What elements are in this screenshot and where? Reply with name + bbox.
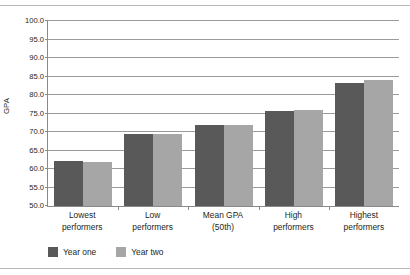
x-axis-category-label-line: Low	[117, 210, 187, 222]
chart-figure: GPA 50.055.060.065.070.075.080.085.090.0…	[0, 0, 410, 275]
x-axis-category-label-line: performers	[329, 222, 399, 234]
y-axis-tick-label: 60.0	[29, 165, 44, 173]
x-axis-category-label: Highperformers	[258, 210, 328, 233]
bar	[294, 110, 323, 206]
y-axis-tick-label: 85.0	[29, 73, 44, 81]
x-axis-category-label: Lowperformers	[117, 210, 187, 233]
legend-label: Year one	[63, 248, 96, 256]
bar-group	[329, 21, 399, 206]
legend-item[interactable]: Year one	[48, 247, 96, 257]
y-axis-tick-label: 80.0	[29, 91, 44, 99]
y-axis-title: GPA	[3, 98, 11, 114]
y-axis-tick-label: 70.0	[29, 128, 44, 136]
y-axis-tick-label: 75.0	[29, 110, 44, 118]
y-axis-tick-label: 50.0	[29, 202, 44, 210]
bottom-divider-rule	[0, 268, 410, 269]
bar-group	[118, 21, 188, 206]
bar-group	[259, 21, 329, 206]
bar	[153, 134, 182, 206]
y-axis-tick-label: 95.0	[29, 36, 44, 44]
bar	[54, 161, 83, 206]
x-axis-category-label-line: performers	[117, 222, 187, 234]
plot-area: 50.055.060.065.070.075.080.085.090.095.0…	[47, 21, 399, 207]
y-axis-tick-label: 55.0	[29, 184, 44, 192]
legend-swatch-icon	[116, 247, 126, 257]
bar	[335, 83, 364, 206]
bar	[83, 162, 112, 206]
bar	[224, 125, 253, 206]
bar	[364, 80, 393, 206]
y-axis-tick-label: 100.0	[25, 17, 44, 25]
legend-label: Year two	[131, 248, 163, 256]
x-axis-category-label-line: High	[258, 210, 328, 222]
y-axis-tick-label: 65.0	[29, 147, 44, 155]
bar-group	[48, 21, 118, 206]
y-axis-tick-label: 90.0	[29, 54, 44, 62]
bar-groups	[48, 21, 399, 206]
bar	[195, 125, 224, 206]
chart-legend: Year oneYear two	[47, 247, 400, 257]
x-axis-category-label-line: (50th)	[188, 222, 258, 234]
legend-item[interactable]: Year two	[116, 247, 163, 257]
x-axis-category-label-line: Lowest	[47, 210, 117, 222]
x-axis-category-label-line: performers	[258, 222, 328, 234]
bar	[124, 134, 153, 206]
x-axis-category-label: Highestperformers	[329, 210, 399, 233]
x-axis-category-label-line: performers	[47, 222, 117, 234]
x-axis-category-label-line: Highest	[329, 210, 399, 222]
x-axis-category-label: Mean GPA(50th)	[188, 210, 258, 233]
x-axis-category-label: Lowestperformers	[47, 210, 117, 233]
top-divider-rule	[0, 5, 410, 6]
legend-swatch-icon	[48, 247, 58, 257]
x-axis-category-labels: LowestperformersLowperformersMean GPA(50…	[47, 210, 399, 233]
bar	[265, 111, 294, 206]
bar-group	[188, 21, 258, 206]
x-axis-category-label-line: Mean GPA	[188, 210, 258, 222]
